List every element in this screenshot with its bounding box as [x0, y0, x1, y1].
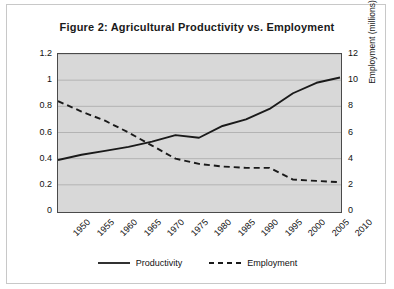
y-tick-label: 1.2 — [22, 49, 52, 58]
legend-label-employment: Employment — [247, 258, 297, 268]
x-tick-label: 1965 — [141, 217, 162, 238]
x-tick-label: 1985 — [235, 217, 256, 238]
x-tick-label: 1975 — [188, 217, 209, 238]
series-line-employment — [58, 101, 340, 182]
y-tick-label: 2 — [348, 180, 378, 189]
y-tick-label: 0.4 — [22, 154, 52, 163]
x-tick-label: 2005 — [329, 217, 350, 238]
y-tick-label: 4 — [348, 154, 378, 163]
y-tick-label: 10 — [348, 75, 378, 84]
legend-label-productivity: Productivity — [136, 258, 183, 268]
x-tick-label: 2010 — [353, 217, 374, 238]
figure-frame: Figure 2: Agricultural Productivity vs. … — [6, 4, 386, 284]
x-tick-label: 1950 — [71, 217, 92, 238]
y-tick-label: 0 — [22, 206, 52, 215]
y-tick-label: 0.2 — [22, 180, 52, 189]
page-title: Figure 2: Agricultural Productivity vs. … — [7, 21, 387, 33]
legend-item-employment: Employment — [208, 258, 297, 268]
x-tick-label: 1955 — [94, 217, 115, 238]
legend-item-productivity: Productivity — [97, 258, 183, 268]
y-tick-label: 0 — [348, 206, 378, 215]
legend-swatch-dashed-icon — [208, 259, 242, 267]
x-tick-label: 1970 — [165, 217, 186, 238]
legend-swatch-solid-icon — [97, 259, 131, 267]
y-tick-label: 0.6 — [22, 128, 52, 137]
x-tick-label: 2000 — [306, 217, 327, 238]
x-tick-label: 1995 — [282, 217, 303, 238]
y-axis-right-title: Employment (millions) — [367, 0, 377, 117]
x-tick-label: 1990 — [259, 217, 280, 238]
plot-svg — [58, 54, 341, 212]
y-tick-label: 1 — [22, 75, 52, 84]
plot-area — [57, 53, 342, 213]
legend: Productivity Employment — [7, 258, 387, 268]
series-lines — [58, 78, 340, 183]
x-tick-label: 1960 — [118, 217, 139, 238]
y-tick-label: 6 — [348, 128, 378, 137]
gridlines — [58, 54, 341, 185]
x-tick-label: 1980 — [212, 217, 233, 238]
y-tick-label: 12 — [348, 49, 378, 58]
y-tick-label: 8 — [348, 101, 378, 110]
y-tick-label: 0.8 — [22, 101, 52, 110]
